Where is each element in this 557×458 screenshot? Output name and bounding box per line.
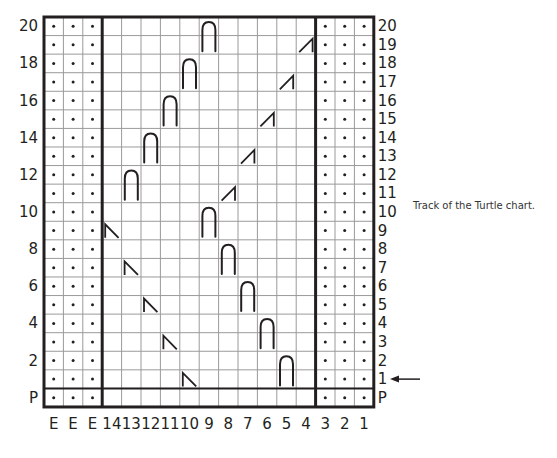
purl-dot: [72, 303, 75, 306]
purl-dot: [72, 340, 75, 343]
purl-dot: [324, 192, 327, 195]
row-label-right: 17: [378, 73, 397, 91]
purl-dot: [324, 43, 327, 46]
row-label-left: 2: [28, 352, 38, 370]
cable-symbol: [164, 96, 177, 125]
purl-dot: [52, 359, 55, 362]
purl-dot: [343, 118, 346, 121]
purl-dot: [363, 229, 366, 232]
row-label-left: 18: [19, 54, 38, 72]
stitch-symbols: [52, 22, 365, 399]
purl-dot: [52, 99, 55, 102]
purl-dot: [363, 378, 366, 381]
purl-dot: [324, 80, 327, 83]
column-label: 13: [122, 415, 141, 433]
purl-dot: [91, 266, 94, 269]
cable-symbol: [125, 171, 138, 200]
cable-symbol: [222, 245, 235, 274]
purl-dot: [91, 396, 94, 399]
row-label-left: 8: [28, 240, 38, 258]
purl-dot: [343, 378, 346, 381]
row-label-right: 7: [378, 259, 388, 277]
column-label: 12: [141, 415, 160, 433]
purl-dot: [343, 25, 346, 28]
row-label-left: 14: [19, 129, 38, 147]
purl-dot: [91, 378, 94, 381]
purl-dot: [324, 118, 327, 121]
purl-dot: [343, 396, 346, 399]
cable-symbol: [183, 59, 196, 88]
purl-dot: [324, 340, 327, 343]
purl-dot: [91, 248, 94, 251]
purl-dot: [363, 359, 366, 362]
purl-dot: [72, 322, 75, 325]
row-label-right: 10: [378, 203, 397, 221]
purl-dot: [363, 322, 366, 325]
row-label-right: 15: [378, 110, 397, 128]
chart-labels: P2468101214161820P1234567891011121314151…: [19, 17, 420, 433]
column-label: 5: [282, 415, 292, 433]
row-label-left: P: [29, 389, 38, 407]
cable-symbol: [280, 356, 293, 385]
purl-dot: [363, 303, 366, 306]
purl-dot: [343, 266, 346, 269]
row-label-left: 4: [28, 314, 38, 332]
purl-dot: [324, 248, 327, 251]
purl-dot: [72, 266, 75, 269]
purl-dot: [343, 99, 346, 102]
purl-dot: [72, 359, 75, 362]
knitting-chart: P2468101214161820P1234567891011121314151…: [0, 0, 557, 458]
purl-dot: [72, 173, 75, 176]
row-label-right: 20: [378, 17, 397, 35]
purl-dot: [91, 303, 94, 306]
row-label-right: 1: [378, 370, 388, 388]
purl-dot: [363, 136, 366, 139]
purl-dot: [324, 378, 327, 381]
right-slant-decrease-symbol: [241, 150, 254, 164]
purl-dot: [72, 248, 75, 251]
cable-symbol: [261, 319, 274, 348]
column-label: E: [88, 415, 97, 433]
purl-dot: [343, 303, 346, 306]
cable-symbol: [241, 282, 254, 311]
row-label-right: 19: [378, 36, 397, 54]
purl-dot: [91, 136, 94, 139]
row-label-right: 8: [378, 240, 388, 258]
purl-dot: [343, 248, 346, 251]
purl-dot: [91, 99, 94, 102]
purl-dot: [343, 136, 346, 139]
purl-dot: [72, 62, 75, 65]
right-slant-decrease-symbol: [222, 187, 235, 201]
row-label-right: 4: [378, 314, 388, 332]
purl-dot: [91, 210, 94, 213]
purl-dot: [91, 359, 94, 362]
purl-dot: [324, 322, 327, 325]
purl-dot: [324, 359, 327, 362]
cable-symbol: [202, 22, 215, 51]
purl-dot: [72, 80, 75, 83]
purl-dot: [91, 118, 94, 121]
purl-dot: [52, 285, 55, 288]
purl-dot: [363, 25, 366, 28]
row-label-right: 14: [378, 129, 397, 147]
purl-dot: [72, 136, 75, 139]
row-label-left: 12: [19, 166, 38, 184]
purl-dot: [72, 229, 75, 232]
column-label: 2: [340, 415, 350, 433]
column-label: 14: [102, 415, 121, 433]
purl-dot: [52, 43, 55, 46]
right-slant-decrease-symbol: [260, 113, 273, 127]
purl-dot: [363, 340, 366, 343]
purl-dot: [91, 80, 94, 83]
left-slant-decrease-symbol: [183, 373, 196, 387]
right-slant-decrease-symbol: [299, 39, 312, 53]
purl-dot: [52, 340, 55, 343]
purl-dot: [91, 192, 94, 195]
purl-dot: [343, 285, 346, 288]
purl-dot: [324, 285, 327, 288]
purl-dot: [363, 396, 366, 399]
row-label-left: 20: [19, 17, 38, 35]
left-slant-decrease-symbol: [144, 299, 157, 313]
purl-dot: [72, 378, 75, 381]
column-label: 8: [224, 415, 234, 433]
